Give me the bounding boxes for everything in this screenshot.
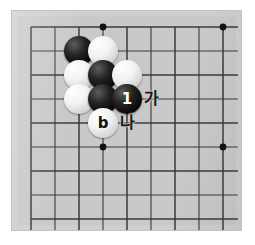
stone-white-b[interactable]: b [88, 108, 118, 138]
go-board: 1b가나 [12, 11, 241, 230]
stone-black-1[interactable]: 1 [112, 84, 142, 114]
stone-label: 1 [122, 91, 132, 106]
label-na: 나 [120, 115, 135, 131]
go-diagram-root: 1b가나 [0, 0, 255, 245]
label-ga: 가 [144, 91, 159, 107]
stone-label: b [98, 115, 109, 130]
stones-layer: 1b가나 [12, 11, 241, 230]
